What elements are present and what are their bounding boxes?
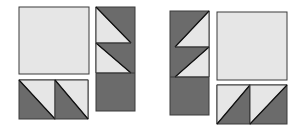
right-column <box>170 11 209 115</box>
left-group <box>19 7 135 119</box>
right-hst-2 <box>250 85 287 124</box>
right-group <box>170 11 287 124</box>
quilt-diagram <box>0 0 302 133</box>
right-large-square <box>217 12 287 80</box>
right-hst-1 <box>217 85 250 124</box>
left-column <box>96 7 135 111</box>
left-hst-1 <box>19 80 55 119</box>
left-large-square <box>19 7 89 74</box>
left-hst-2 <box>55 80 88 119</box>
